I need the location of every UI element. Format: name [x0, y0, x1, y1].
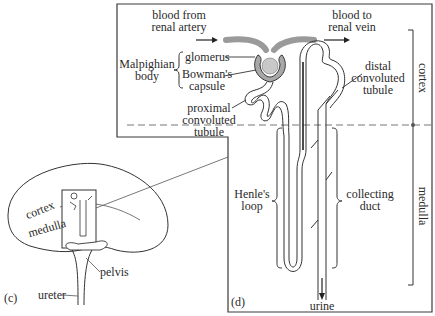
afferent-arteriole	[226, 39, 266, 50]
ureter-label: ureter	[38, 289, 66, 301]
panel-c-label: (c)	[4, 292, 17, 304]
glomerulus	[262, 58, 278, 74]
distal-label: distal convoluted tubule	[348, 60, 408, 96]
zoom-leader	[96, 157, 228, 208]
henle-loop-inner	[289, 62, 300, 267]
henle-label: Henle's loop	[232, 188, 272, 212]
bracket-node	[411, 123, 415, 127]
arrow-out-head	[344, 37, 350, 43]
ureter	[72, 250, 92, 305]
panel-d-label: (d)	[231, 296, 245, 308]
efferent-arteriole	[274, 39, 314, 50]
pelvis-label: pelvis	[100, 266, 129, 278]
proximal-label: proximal convoluted tubule	[176, 102, 242, 138]
zone-cortex-label: cortex	[417, 53, 429, 103]
glomerus-label: glomerus	[185, 51, 230, 63]
nephron-diagram	[0, 0, 435, 316]
bowmans-label: Bowman's capsule	[180, 68, 234, 92]
zone-medulla-label: medulla	[417, 175, 429, 237]
blood-in-label: blood from renal artery	[124, 9, 234, 33]
pelvis-leader	[86, 258, 100, 272]
arrow-in-head	[212, 37, 218, 43]
blood-out-label: blood to renal vein	[312, 9, 392, 33]
malpighian-label: Malpighian body	[116, 58, 178, 82]
collecting-tributaries	[311, 140, 332, 228]
collecting-label: collecting duct	[340, 188, 400, 212]
henle-brace	[272, 128, 282, 268]
urine-label: urine	[306, 300, 338, 312]
zone-bracket	[408, 30, 413, 285]
proximal-tubule-outer	[245, 82, 284, 180]
